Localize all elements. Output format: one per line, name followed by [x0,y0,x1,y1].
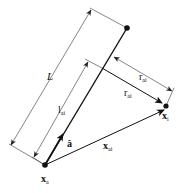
point-line-end [124,25,130,31]
r-ai-dimension-line [114,57,172,91]
label-r-ai-lower: rai [124,87,132,99]
label-x-ai: xai [103,140,113,152]
label-r-ai-upper: rai [139,71,147,83]
label-L: L [46,70,53,82]
point-x-i [163,103,168,108]
label-l-ai: lai [58,104,65,116]
label-x-a: xa [41,173,49,185]
l-ai-extension-top [85,59,102,68]
x-ai-vector [45,110,164,165]
L-extension-top [90,8,127,28]
label-a-hat: â [67,138,72,149]
r-ai-vector [102,68,162,103]
diagram-canvas: L lai rai rai â xai xa xi [0,0,185,193]
label-x-i: xi [162,110,169,122]
r-ai-extension [166,88,174,106]
point-x-a [42,162,48,168]
